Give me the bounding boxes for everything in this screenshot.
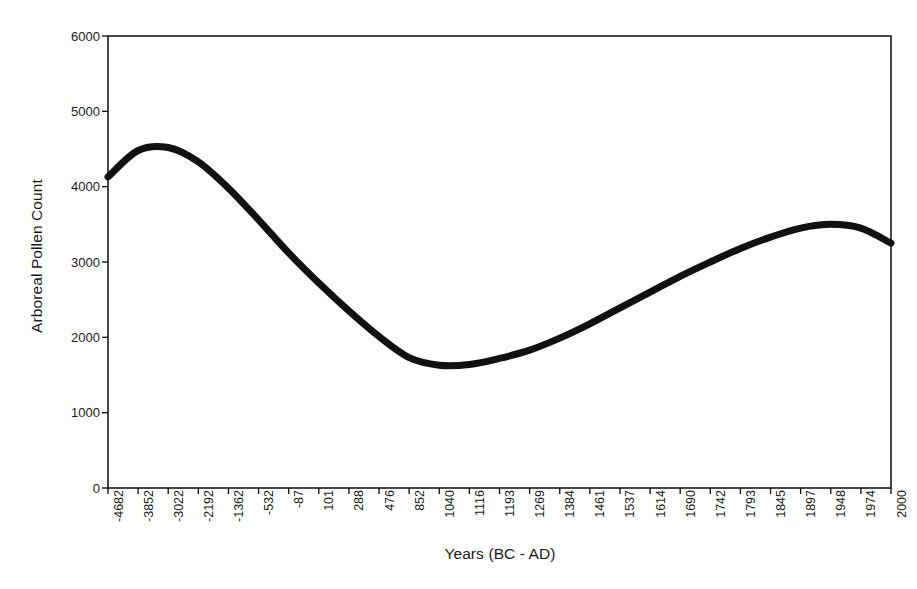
x-axis-tick-label: 1040 (444, 490, 457, 589)
x-axis-tick-label: 1384 (564, 490, 577, 589)
x-axis-tick-label: 1690 (685, 490, 698, 589)
x-axis-tick-label: -87 (293, 490, 306, 589)
x-axis-title: Years (BC - AD) (108, 545, 892, 563)
x-axis-tick-label: 1614 (655, 490, 668, 589)
x-axis-tick-label: 1116 (474, 490, 487, 589)
y-axis-title: Arboreal Pollen Count (26, 136, 48, 376)
x-axis-tick-label: -532 (263, 490, 276, 589)
x-axis-tick-labels: -4682-3852-3022-2192-1362-532-8710128847… (0, 0, 917, 589)
x-axis-tick-label: 1461 (594, 490, 607, 589)
x-axis-tick-label: -4682 (113, 490, 126, 589)
x-axis-tick-label: 1845 (775, 490, 788, 589)
x-axis-tick-label: 288 (353, 490, 366, 589)
x-axis-tick-label: -3022 (173, 490, 186, 589)
x-axis-tick-label: 101 (323, 490, 336, 589)
x-axis-tick-label: 1948 (835, 490, 848, 589)
x-axis-tick-label: 1269 (534, 490, 547, 589)
x-axis-tick-label: -2192 (203, 490, 216, 589)
x-axis-tick-label: 1897 (805, 490, 818, 589)
x-axis-tick-label: -3852 (143, 490, 156, 589)
x-axis-tick-label: 2000 (896, 490, 909, 589)
x-axis-tick-label: -1362 (233, 490, 246, 589)
x-axis-tick-label: 1537 (624, 490, 637, 589)
x-axis-tick-label: 476 (384, 490, 397, 589)
pollen-count-line-chart: 0100020003000400050006000 -4682-3852-302… (0, 0, 917, 589)
x-axis-tick-label: 1193 (504, 490, 517, 589)
x-axis-tick-label: 1974 (865, 490, 878, 589)
x-axis-tick-label: 852 (414, 490, 427, 589)
x-axis-tick-label: 1742 (715, 490, 728, 589)
x-axis-tick-label: 1793 (745, 490, 758, 589)
